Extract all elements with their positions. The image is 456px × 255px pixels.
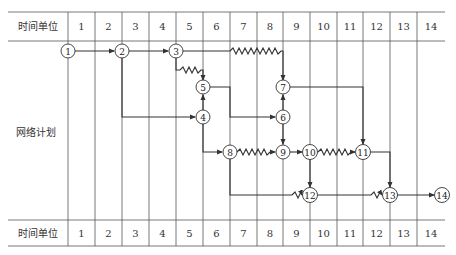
svg-text:14: 14 <box>436 191 448 201</box>
header-unit-5: 5 <box>176 12 203 41</box>
footer-unit-13: 13 <box>390 219 417 248</box>
footer-unit-1: 1 <box>68 219 95 248</box>
svg-text:5: 5 <box>200 83 206 93</box>
node-5: 5 <box>196 80 210 94</box>
footer-unit-10: 10 <box>310 219 337 248</box>
footer-unit-11: 11 <box>337 219 363 248</box>
node-3: 3 <box>169 44 183 58</box>
svg-text:9: 9 <box>280 148 286 158</box>
footer-unit-6: 6 <box>203 219 230 248</box>
header-unit-7: 7 <box>230 12 257 41</box>
nodes: 1 2 3 4 5 6 7 8 9 10 11 12 13 14 <box>61 44 450 203</box>
header-unit-1: 1 <box>68 12 95 41</box>
footer-unit-7: 7 <box>230 219 257 248</box>
header-time-unit-label: 时间单位 <box>8 12 68 41</box>
node-12: 12 <box>303 188 318 203</box>
footer-unit-2: 2 <box>95 219 122 248</box>
header-unit-14: 14 <box>417 12 445 41</box>
svg-text:6: 6 <box>280 113 286 123</box>
node-1: 1 <box>61 44 75 58</box>
svg-text:13: 13 <box>384 191 396 201</box>
svg-text:7: 7 <box>280 83 286 93</box>
node-11: 11 <box>356 145 371 160</box>
node-9: 9 <box>276 145 290 159</box>
footer-unit-14: 14 <box>417 219 445 248</box>
header-unit-13: 13 <box>390 12 417 41</box>
edge-12-13 <box>318 192 382 198</box>
edge-3-5 <box>176 58 203 80</box>
node-8: 8 <box>223 145 237 159</box>
footer-unit-9: 9 <box>283 219 310 248</box>
svg-text:4: 4 <box>200 113 206 123</box>
edge-5-6 <box>210 87 275 117</box>
footer-unit-8: 8 <box>257 219 283 248</box>
header-unit-12: 12 <box>363 12 390 41</box>
footer-unit-4: 4 <box>149 219 176 248</box>
node-13: 13 <box>383 188 398 203</box>
node-4: 4 <box>196 110 210 124</box>
node-14: 14 <box>435 188 450 203</box>
header-unit-8: 8 <box>257 12 283 41</box>
header-unit-3: 3 <box>122 12 149 41</box>
network-plan-label: 网络计划 <box>8 124 64 139</box>
svg-text:11: 11 <box>357 148 368 158</box>
svg-text:2: 2 <box>119 47 125 57</box>
svg-text:10: 10 <box>304 148 316 158</box>
node-6: 6 <box>276 110 290 124</box>
header-unit-2: 2 <box>95 12 122 41</box>
header-unit-6: 6 <box>203 12 230 41</box>
edge-2-4 <box>122 58 195 117</box>
edges <box>75 48 434 198</box>
edge-8-12 <box>230 159 302 198</box>
header-unit-4: 4 <box>149 12 176 41</box>
edge-3-7 <box>183 48 283 80</box>
header-unit-9: 9 <box>283 12 310 41</box>
svg-text:12: 12 <box>304 191 315 201</box>
edge-7-11 <box>290 87 363 144</box>
edge-10-11 <box>318 149 355 155</box>
edge-11-13 <box>370 152 390 187</box>
node-7: 7 <box>276 80 290 94</box>
edge-4-8 <box>203 124 222 152</box>
node-10: 10 <box>303 145 318 160</box>
header-unit-10: 10 <box>310 12 337 41</box>
footer-time-unit-label: 时间单位 <box>8 219 68 248</box>
svg-text:3: 3 <box>173 47 179 57</box>
header-unit-11: 11 <box>337 12 363 41</box>
edge-8-9 <box>237 149 275 155</box>
footer-unit-3: 3 <box>122 219 149 248</box>
svg-text:1: 1 <box>65 47 71 57</box>
node-2: 2 <box>115 44 129 58</box>
footer-unit-5: 5 <box>176 219 203 248</box>
svg-text:8: 8 <box>227 148 233 158</box>
footer-unit-12: 12 <box>363 219 390 248</box>
